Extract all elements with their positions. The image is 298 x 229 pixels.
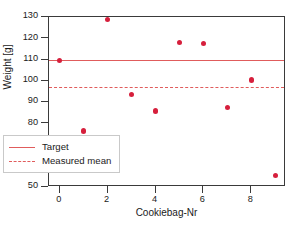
y-axis-tick [41, 16, 48, 17]
data-point [249, 77, 254, 82]
x-axis-tick [59, 186, 60, 193]
x-axis-tick-label: 2 [92, 195, 122, 204]
data-point [129, 92, 134, 97]
data-point [201, 41, 206, 46]
legend-item: Measured mean [9, 154, 111, 168]
legend-item-label: Measured mean [42, 156, 111, 166]
x-axis-label: Cookiebag-Nr [48, 208, 285, 218]
x-axis-tick [202, 186, 203, 193]
x-axis-tick-label: 4 [140, 195, 170, 204]
x-axis-tick [250, 186, 251, 193]
x-axis-tick-label: 8 [235, 195, 265, 204]
y-axis-tick-label: 110 [0, 54, 38, 63]
y-axis-tick-label: 120 [0, 33, 38, 42]
data-point [105, 17, 110, 22]
y-axis-tick-label: 130 [0, 11, 38, 20]
legend-dashed-line-icon [9, 161, 35, 162]
data-point [57, 58, 62, 63]
y-axis-tick [41, 37, 48, 38]
y-axis-tick-label: 90 [0, 96, 38, 105]
chart-legend: TargetMeasured mean [3, 135, 120, 173]
data-point [225, 105, 230, 110]
y-axis-tick [41, 80, 48, 81]
data-point [81, 128, 86, 133]
data-point [177, 40, 182, 45]
y-axis-tick-label: 100 [0, 75, 38, 84]
reference-line-measured-mean [49, 87, 284, 88]
data-point [153, 108, 158, 113]
data-point [273, 173, 278, 178]
x-axis-tick-label: 0 [44, 195, 74, 204]
x-axis-tick [107, 186, 108, 193]
legend-item: Target [9, 140, 111, 154]
y-axis-tick [41, 122, 48, 123]
x-axis-tick [155, 186, 156, 193]
y-axis-tick-label: 50 [0, 181, 38, 190]
y-axis-tick [41, 186, 48, 187]
chart-figure: Weight [g] 5060708090100110120130 02468 … [0, 0, 298, 229]
x-axis-tick-label: 6 [187, 195, 217, 204]
y-axis-tick [41, 59, 48, 60]
y-axis-tick [41, 101, 48, 102]
legend-item-label: Target [42, 142, 69, 152]
y-axis-tick-label: 80 [0, 118, 38, 127]
reference-line-target [49, 60, 284, 61]
legend-solid-line-icon [9, 147, 35, 148]
